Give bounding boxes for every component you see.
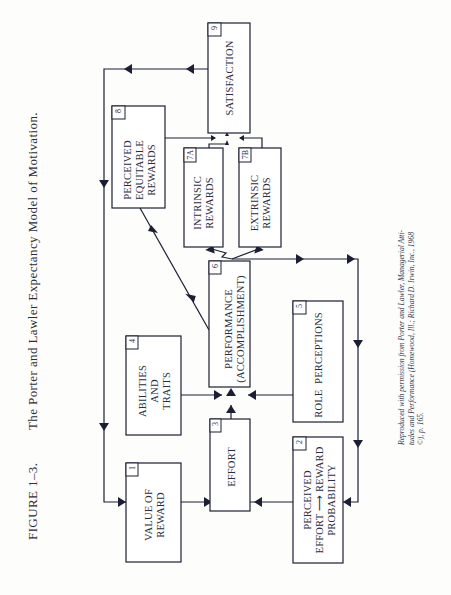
box-number: 2 [295,440,304,444]
source-note: Reproduced with permission from Porter a… [397,229,425,446]
porter-lawler-diagram: FIGURE 1–3. The Porter and Lawler Expect… [0,0,451,595]
arrow-icon [353,440,363,448]
box-label-line-2: REWARD [155,492,166,538]
arrow-icon [118,497,126,507]
arrow-icon [225,140,229,145]
box-label-line-2: EQUITABLE [134,140,145,200]
arrow-icon [353,340,363,348]
figure-title: The Porter and Lawler Expectancy Model o… [25,112,40,430]
arrow-icon [248,390,256,400]
arrow-icon [296,254,304,264]
box-label-line-1: PERCEIVED [122,140,133,200]
figure-number: FIGURE 1–3. [25,463,40,540]
intrinsic-to-satisfaction-line [209,144,227,148]
arrow-icon [347,254,355,264]
arrow-icon [99,180,109,188]
box-label: EFFORT [226,447,237,487]
box-number: 3 [211,422,220,426]
box-number: 7A [186,150,195,160]
box-label-line-1: ABILITIES [137,365,148,417]
arrow-icon [186,64,194,74]
box-label-line-2: REWARDS [261,177,272,229]
arrow-icon [254,497,262,507]
box-number: 1 [128,466,137,470]
arrow-icon [239,135,244,141]
arrow-icon [148,225,158,233]
box-label-line-2: AND [149,379,160,403]
box-label-line-3: TRAITS [161,372,172,410]
box-label-line-1: INTRINSIC [192,176,203,230]
arrow-icon [226,388,236,396]
box-label: SATISFACTION [224,40,235,115]
box-label-line-3: PROBABILITY [326,464,337,536]
box-label-line-1: PERFORMANCE [223,289,234,369]
box-abilities-and-traits: 4 ABILITIES AND TRAITS [126,336,181,435]
box-value-of-reward: 1 VALUE OF REWARD [126,463,181,562]
box-satisfaction: 9 SATISFACTION [208,23,250,133]
box-number: 5 [295,304,304,308]
arrow-icon [226,405,236,413]
arrow-icon [99,423,109,431]
source-line-1: Reproduced with permission from Porter a… [397,229,406,446]
box-label-line-3: REWARDS [146,144,157,196]
box-number: 7B [241,150,250,159]
box-perceived-effort-reward-probability: 2 PERCEIVED EFFORT ⟶ REWARD PROBABILITY [293,437,343,563]
box-perceived-equitable-rewards: 8 PERCEIVED EQUITABLE REWARDS [112,106,165,208]
box-label-line-1: PERCEIVED [302,470,313,530]
arrow-icon [214,390,222,400]
box-label-line-2: EFFORT ⟶ REWARD [314,446,325,553]
box-intrinsic-rewards: 7A INTRINSIC REWARDS [184,148,223,247]
box-role-perceptions: 5 ROLE PERCEPTIONS [293,301,343,422]
box-effort: 3 EFFORT [210,419,250,511]
performance-to-intrinsic-line [212,249,232,259]
arrow-icon [211,135,216,141]
box-label-line-2: REWARDS [204,177,215,229]
box-number: 6 [211,264,220,268]
arrow-icon [343,497,351,507]
box-number: 9 [210,26,219,30]
box-number: 4 [128,339,137,343]
arrow-icon [124,64,132,74]
performance-to-extrinsic-line [232,249,258,259]
source-line-3: ©), p. 165. [416,412,425,445]
box-performance: 6 PERFORMANCE (ACCOMPLISHMENT) [209,261,250,387]
box-extrinsic-rewards: 7B EXTRINSIC REWARDS [239,148,281,247]
box-label-line-2: (ACCOMPLISHMENT) [235,275,247,383]
figure-caption: FIGURE 1–3. The Porter and Lawler Expect… [25,112,40,540]
box-label-line-1: VALUE OF [143,489,154,541]
box-label: ROLE PERCEPTIONS [313,312,324,418]
source-line-2: tudes and Performance (Homewood, Ill.; R… [407,232,416,445]
box-label-line-1: EXTRINSIC [249,175,260,232]
arrow-icon [185,292,197,304]
box-number: 8 [114,109,123,113]
